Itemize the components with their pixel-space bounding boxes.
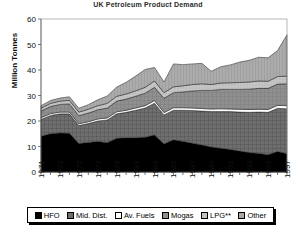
legend-swatch-lpg-icon <box>201 212 208 219</box>
y-tick-label: 10 <box>27 143 36 152</box>
legend-label-other: Other <box>247 211 266 220</box>
x-tick-label: 1987 <box>188 160 197 178</box>
legend-item-other[interactable]: Other <box>238 211 266 220</box>
legend-item-lpg[interactable]: LPG** <box>201 211 231 220</box>
legend-swatch-other-icon <box>238 212 245 219</box>
y-tick-label: 0 <box>32 168 37 177</box>
x-tick-label: 1979 <box>113 160 122 178</box>
legend-item-middist[interactable]: Mid. Dist. <box>67 211 107 220</box>
legend-swatch-avfuels-icon <box>115 212 122 219</box>
legend-label-lpg: LPG** <box>210 211 231 220</box>
x-tick-label: 1975 <box>75 160 84 178</box>
x-tick-label: 1981 <box>132 160 141 178</box>
y-tick-label: 30 <box>27 92 36 101</box>
y-tick-label: 60 <box>27 15 36 24</box>
y-tick-label: 20 <box>27 117 36 126</box>
legend-item-avfuels[interactable]: Av. Fuels <box>115 211 155 220</box>
legend-label-hfo: HFO <box>44 211 60 220</box>
legend-item-mogas[interactable]: Mogas <box>162 211 194 220</box>
chart-container: UK Petroleum Product Demand Million Tonn… <box>0 0 296 230</box>
legend-label-mogas: Mogas <box>171 211 194 220</box>
x-tick-label: 1971 <box>37 160 46 178</box>
x-tick-label: 1997 <box>283 160 292 178</box>
legend-swatch-hfo-icon <box>35 212 42 219</box>
x-tick-label: 1985 <box>169 160 178 178</box>
x-tick-label: 1989 <box>207 160 216 178</box>
legend-item-hfo[interactable]: HFO <box>35 211 60 220</box>
y-tick-label: 40 <box>27 66 36 75</box>
y-tick-label: 50 <box>27 41 36 50</box>
x-tick-label: 1993 <box>245 160 254 178</box>
x-tick-label: 1977 <box>94 160 103 178</box>
legend-swatch-mogas-icon <box>162 212 169 219</box>
x-tick-label: 1995 <box>264 160 273 178</box>
x-tick-label: 1973 <box>56 160 65 178</box>
legend-label-middist: Mid. Dist. <box>76 211 107 220</box>
x-tick-label: 1983 <box>151 160 160 178</box>
x-tick-label: 1991 <box>226 160 235 178</box>
legend-label-avfuels: Av. Fuels <box>124 211 155 220</box>
legend-swatch-middist-icon <box>67 212 74 219</box>
chart-legend: HFOMid. Dist.Av. FuelsMogasLPG**Other <box>27 207 274 223</box>
plot-area: 0102030405060197119731975197719791981198… <box>0 0 296 230</box>
